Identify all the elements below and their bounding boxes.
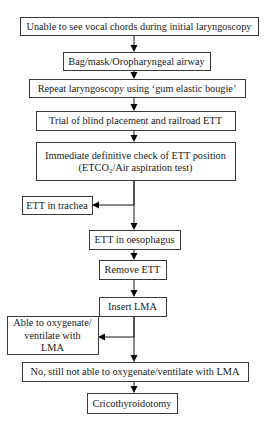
node-label: Repeat laryngoscopy using ‘gum elastic b… — [38, 83, 237, 94]
node-label: Bag/mask/Oropharyngeal airway — [68, 56, 205, 67]
arrow-head-icon — [131, 135, 138, 142]
edge-bag-to-repeat — [131, 70, 138, 79]
arrow-head-icon — [131, 45, 138, 52]
edge-insert-to-able — [98, 316, 134, 341]
node-trial: Trial of blind placement and railroad ET… — [37, 112, 236, 131]
node-label: Remove ETT — [105, 264, 161, 275]
node-remove: Remove ETT — [100, 261, 167, 280]
arrow-head-icon — [131, 253, 138, 260]
connector-line — [105, 316, 134, 337]
node-repeat: Repeat laryngoscopy using ‘gum elastic b… — [30, 80, 246, 98]
edge-unable-to-bag — [131, 35, 138, 52]
node-label: (ETCO₂/Air aspiration test) — [79, 162, 193, 174]
node-label: Immediate definitive check of ETT positi… — [45, 150, 226, 161]
node-label: Unable to see vocal chords during initia… — [26, 21, 252, 32]
edge-repeat-to-trial — [131, 97, 138, 111]
node-label: Cricothyroidotomy — [93, 398, 173, 409]
arrow-head-icon — [131, 355, 138, 362]
arrow-head-icon — [92, 202, 99, 209]
node-oesophagus: ETT in oesophagus — [90, 231, 181, 250]
node-label: ETT in trachea — [26, 200, 88, 211]
node-crico: Cricothyroidotomy — [88, 394, 178, 414]
node-label: LMA — [41, 342, 64, 353]
node-label: Insert LMA — [108, 301, 157, 312]
edge-trial-to-check — [131, 130, 138, 142]
flowchart: Unable to see vocal chords during initia… — [0, 0, 267, 427]
arrow-head-icon — [131, 72, 138, 79]
edge-oesophagus-to-remove — [131, 249, 138, 260]
node-trachea: ETT in trachea — [23, 197, 93, 215]
edge-notable-to-crico — [131, 381, 138, 393]
node-check: Immediate definitive check of ETT positi… — [37, 143, 236, 181]
arrow-head-icon — [98, 334, 105, 341]
node-bag: Bag/mask/Oropharyngeal airway — [64, 53, 211, 71]
arrow-head-icon — [131, 223, 138, 230]
arrow-head-icon — [131, 290, 138, 297]
arrow-head-icon — [131, 386, 138, 393]
node-able: Able to oxygenate/ventilate withLMA — [8, 317, 99, 355]
edge-check-to-trachea — [92, 180, 134, 209]
edge-insert-to-notable — [131, 316, 138, 362]
edge-remove-to-insert — [131, 279, 138, 297]
arrow-head-icon — [131, 104, 138, 111]
node-label: Able to oxygenate/ — [13, 317, 91, 328]
node-label: ventilate with — [24, 330, 81, 341]
node-label: ETT in oesophagus — [95, 234, 175, 245]
node-insert: Insert LMA — [100, 298, 167, 317]
connector-line — [99, 180, 134, 205]
node-notable: No, still not able to oxygenate/ventilat… — [23, 363, 249, 382]
node-unable: Unable to see vocal chords during initia… — [21, 18, 259, 36]
node-label: Trial of blind placement and railroad ET… — [49, 115, 223, 126]
node-label: No, still not able to oxygenate/ventilat… — [31, 366, 240, 377]
